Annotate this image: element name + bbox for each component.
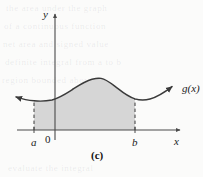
upper-limit-label-b: b — [132, 137, 138, 148]
curve-label-gx: g(x) — [182, 83, 200, 94]
lower-limit-label-a: a — [31, 137, 37, 148]
y-axis-label: y — [43, 9, 48, 20]
panel-caption: (c) — [91, 150, 103, 161]
origin-label: 0 — [45, 134, 51, 145]
figure-container: the area under the graph of a continuous… — [0, 0, 203, 177]
x-axis-label: x — [174, 136, 179, 147]
shaded-region — [34, 78, 135, 130]
